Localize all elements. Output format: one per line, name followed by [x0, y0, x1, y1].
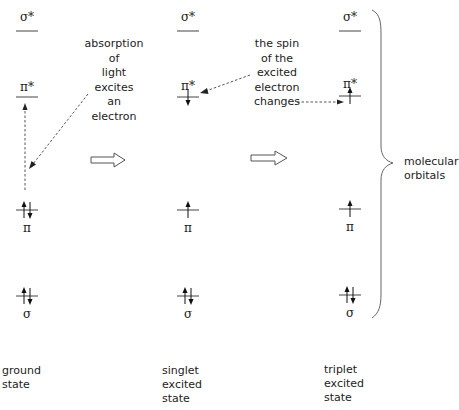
annotation-line: changes [246, 95, 308, 110]
label-line: orbitals [404, 169, 459, 183]
annotation-line: excited [246, 66, 308, 81]
ground-sigma-star-label: σ* [15, 11, 39, 23]
singlet-sigma-star-label: σ* [176, 11, 200, 23]
label-line: excited [162, 378, 202, 392]
triplet-state-levels [339, 31, 361, 304]
singlet-pi-star-label: π* [176, 80, 200, 92]
annotation-line: electron [80, 110, 148, 125]
label-line: excited [324, 377, 364, 391]
curly-brace-icon [372, 10, 393, 318]
triplet-sigma-label: σ [338, 307, 362, 319]
label-line: singlet [162, 364, 202, 378]
triplet-excited-state-label: triplet excited state [324, 363, 364, 405]
annotation-line: absorption [80, 37, 148, 52]
absorption-annotation: absorption of light excites an electron [80, 37, 148, 124]
ground-pi-label: π [15, 222, 39, 234]
label-line: triplet [324, 363, 364, 377]
annotation-line: the spin [246, 37, 308, 52]
block-arrow-icon [91, 153, 125, 167]
label-line: state [324, 391, 364, 405]
triplet-pi-star-label: π* [338, 78, 362, 90]
singlet-state-levels [177, 31, 199, 305]
annotation-line: of [80, 52, 148, 67]
annotation-line: light [80, 66, 148, 81]
singlet-excited-state-label: singlet excited state [162, 364, 202, 406]
singlet-pi-label: π [176, 222, 200, 234]
label-line: state [2, 378, 41, 392]
excitation-dashed-arrow [23, 103, 28, 190]
spin-pointer-arrow [200, 75, 250, 94]
triplet-pi-label: π [338, 221, 362, 233]
annotation-line: electron [246, 81, 308, 96]
ground-pi-star-label: π* [15, 81, 39, 93]
annotation-line: an [80, 95, 148, 110]
label-line: state [162, 392, 202, 406]
annotation-line: excites [80, 81, 148, 96]
ground-state-levels [16, 31, 38, 305]
label-line: molecular [404, 155, 459, 169]
ground-state-label: ground state [2, 364, 41, 392]
label-line: ground [2, 364, 41, 378]
annotation-line: of the [246, 52, 308, 67]
singlet-sigma-label: σ [176, 308, 200, 320]
triplet-sigma-star-label: σ* [338, 11, 362, 23]
block-arrow-icon [251, 151, 287, 165]
ground-sigma-label: σ [15, 308, 39, 320]
spin-change-annotation: the spin of the excited electron changes [246, 37, 308, 110]
molecular-orbitals-label: molecular orbitals [404, 155, 459, 183]
